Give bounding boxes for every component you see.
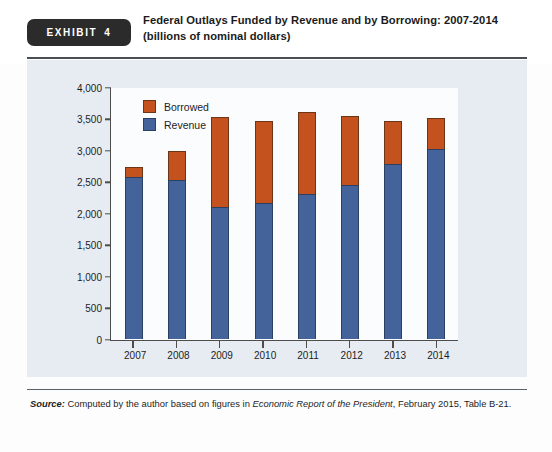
y-axis-tick-mark	[105, 213, 111, 214]
x-axis-tick-mark	[436, 341, 437, 348]
x-axis-labels: 20072008200920102011201220132014	[111, 350, 458, 361]
source-text-before: Computed by the author based on figures …	[65, 398, 253, 409]
bar-segment-borrowed	[341, 116, 359, 184]
exhibit-page: EXHIBIT 4 Federal Outlays Funded by Reve…	[0, 0, 552, 452]
x-axis-tick-mark	[262, 341, 263, 348]
x-axis-tick-cell	[167, 341, 185, 348]
bar-segment-revenue	[168, 180, 186, 339]
bar-segment-borrowed	[255, 121, 273, 202]
exhibit-title-line-2: (billions of nominal dollars)	[143, 28, 533, 44]
bar-column	[255, 88, 273, 339]
x-axis-tick-cell	[254, 341, 272, 348]
x-axis-tick-cell	[211, 341, 229, 348]
bar-segment-borrowed	[211, 117, 229, 206]
x-axis-tick-label: 2007	[124, 350, 142, 361]
bar-column	[427, 88, 445, 339]
x-axis-tick-label: 2013	[384, 350, 402, 361]
source-text-after: , February 2015, Table B-21.	[393, 398, 512, 409]
plot-wrapper: 05001,0001,5002,0002,5003,0003,5004,000 …	[110, 88, 458, 341]
chart-legend: BorrowedRevenue	[143, 100, 209, 131]
exhibit-badge-word: EXHIBIT	[47, 27, 98, 38]
x-axis-tick-label: 2008	[167, 350, 185, 361]
exhibit-header: EXHIBIT 4 Federal Outlays Funded by Reve…	[0, 0, 552, 64]
x-axis-tick-cell	[297, 341, 315, 348]
y-axis-tick-mark	[105, 119, 111, 120]
bar-segment-revenue	[427, 149, 445, 339]
y-axis-tick-mark	[105, 307, 111, 308]
bar-segment-revenue	[125, 177, 143, 339]
bar-segment-borrowed	[384, 121, 402, 164]
x-axis-tick-label: 2014	[427, 350, 445, 361]
exhibit-title-line-1: Federal Outlays Funded by Revenue and by…	[143, 12, 533, 28]
x-axis-tick-cell	[427, 341, 445, 348]
y-axis-tick-mark	[105, 276, 111, 277]
source-label: Source:	[30, 398, 65, 409]
x-axis-tick-cell	[124, 341, 142, 348]
bar-segment-borrowed	[427, 118, 445, 148]
x-axis-tick-cell	[384, 341, 402, 348]
bar-segment-revenue	[298, 194, 316, 339]
legend-item: Borrowed	[143, 100, 209, 113]
source-divider	[27, 389, 527, 390]
bar-column	[298, 88, 316, 339]
x-axis-tick-mark	[349, 341, 350, 348]
bar-column	[125, 88, 143, 339]
x-axis-tick-label: 2009	[211, 350, 229, 361]
bar-segment-borrowed	[168, 151, 186, 180]
exhibit-badge-number: 4	[104, 27, 111, 38]
bar-column	[341, 88, 359, 339]
x-axis-tick-mark	[132, 341, 133, 348]
x-axis-tick-mark	[176, 341, 177, 348]
x-axis-tick-mark	[392, 341, 393, 348]
y-axis-tick-mark	[105, 245, 111, 246]
x-axis-tick-mark	[306, 341, 307, 348]
y-axis-tick-mark	[105, 87, 111, 88]
x-axis-tick-label: 2011	[297, 350, 315, 361]
bar-segment-borrowed	[125, 167, 143, 177]
exhibit-title: Federal Outlays Funded by Revenue and by…	[143, 12, 533, 44]
bar-segment-revenue	[211, 207, 229, 339]
bar-column	[211, 88, 229, 339]
bar-segment-borrowed	[298, 112, 316, 194]
legend-item: Revenue	[143, 118, 209, 131]
legend-label-revenue: Revenue	[164, 119, 206, 131]
source-publication: Economic Report of the President	[253, 398, 393, 409]
header-divider	[27, 57, 527, 59]
legend-swatch-borrowed	[143, 100, 156, 113]
x-axis-ticks	[111, 341, 458, 348]
plot-area: 05001,0001,5002,0002,5003,0003,5004,000 …	[110, 88, 458, 341]
legend-swatch-revenue	[143, 118, 156, 131]
exhibit-badge: EXHIBIT 4	[27, 19, 131, 46]
chart-panel: 05001,0001,5002,0002,5003,0003,5004,000 …	[27, 60, 527, 377]
y-axis-tick-mark	[105, 182, 111, 183]
bar-segment-revenue	[341, 185, 359, 339]
source-note: Source: Computed by the author based on …	[30, 397, 526, 411]
x-axis-tick-mark	[219, 341, 220, 348]
x-axis-tick-label: 2010	[254, 350, 272, 361]
y-axis-tick-mark	[105, 339, 111, 340]
bar-segment-revenue	[384, 164, 402, 339]
bar-segment-revenue	[255, 203, 273, 339]
x-axis-tick-cell	[341, 341, 359, 348]
y-axis-tick-mark	[105, 150, 111, 151]
x-axis-tick-label: 2012	[341, 350, 359, 361]
bar-column	[384, 88, 402, 339]
legend-label-borrowed: Borrowed	[164, 101, 209, 113]
